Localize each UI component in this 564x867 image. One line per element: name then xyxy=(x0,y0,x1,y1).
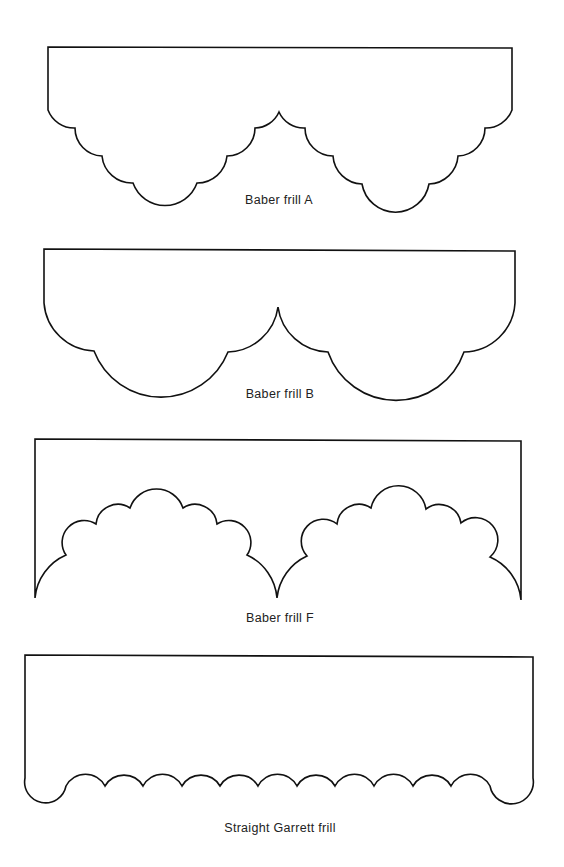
baber-frill-a-label: Baber frill A xyxy=(245,193,313,207)
baber-frill-f: Baber frill F xyxy=(35,439,521,625)
baber-frill-f-label: Baber frill F xyxy=(246,611,314,625)
straight-garrett-frill-label: Straight Garrett frill xyxy=(224,821,336,835)
baber-frill-a-outline xyxy=(48,47,512,212)
baber-frill-f-outline xyxy=(35,439,521,600)
baber-frill-b: Baber frill B xyxy=(44,249,515,401)
straight-garrett-frill-outline xyxy=(25,655,534,804)
straight-garrett-frill: Straight Garrett frill xyxy=(25,655,534,835)
baber-frill-b-outline xyxy=(44,249,515,400)
frill-templates-diagram: Baber frill A Baber frill B Baber frill … xyxy=(0,0,564,867)
baber-frill-b-label: Baber frill B xyxy=(246,387,315,401)
baber-frill-a: Baber frill A xyxy=(48,47,512,212)
